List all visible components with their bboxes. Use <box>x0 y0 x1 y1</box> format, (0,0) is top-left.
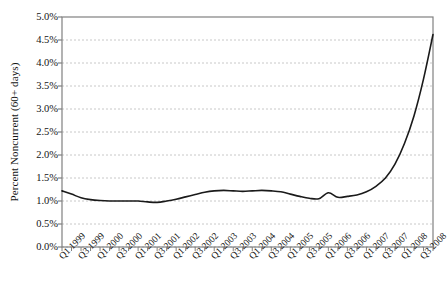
plot-area <box>0 0 447 304</box>
data-series-line <box>62 34 433 202</box>
chart-container: Percent Noncurrent (60+ days) 0.0%0.5%1.… <box>0 0 447 304</box>
